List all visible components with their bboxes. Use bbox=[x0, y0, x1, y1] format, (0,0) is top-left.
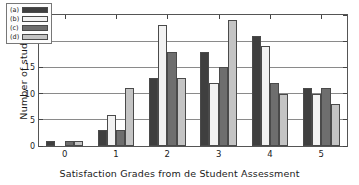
x-axis-tick-label: 3 bbox=[216, 149, 221, 159]
y-axis-tick-label: 0 bbox=[30, 142, 35, 151]
bar-d-grade-2 bbox=[177, 78, 186, 146]
y-axis-tick bbox=[39, 67, 43, 68]
bar-a-grade-5 bbox=[303, 88, 312, 146]
bar-c-grade-2 bbox=[167, 52, 176, 146]
bar-b-grade-4 bbox=[261, 46, 270, 146]
legend-item-b: (b) bbox=[10, 15, 48, 23]
y-axis-tick bbox=[343, 67, 347, 68]
y-axis-tick bbox=[343, 41, 347, 42]
x-axis-title: Satisfaction Grades from de Student Asse… bbox=[0, 168, 359, 179]
gridline bbox=[39, 67, 347, 68]
legend-item-c: (c) bbox=[10, 24, 48, 32]
y-axis-tick-label: 10 bbox=[25, 89, 35, 98]
legend-label: (c) bbox=[10, 24, 19, 32]
bar-d-grade-0 bbox=[74, 141, 83, 146]
legend-swatch-icon bbox=[22, 16, 48, 22]
bar-a-grade-2 bbox=[149, 78, 158, 146]
bar-b-grade-2 bbox=[158, 25, 167, 146]
bar-c-grade-4 bbox=[270, 83, 279, 146]
plot-area: 0510152025012345 bbox=[38, 14, 348, 147]
y-axis-tick bbox=[343, 146, 347, 147]
legend-swatch-icon bbox=[22, 25, 48, 31]
bar-a-grade-3 bbox=[200, 52, 209, 146]
y-axis-tick bbox=[39, 93, 43, 94]
bar-c-grade-0 bbox=[65, 141, 74, 146]
bar-a-grade-1 bbox=[98, 130, 107, 146]
bar-chart-figure: Number of students 0510152025012345 (a)(… bbox=[0, 0, 359, 185]
x-axis-tick bbox=[219, 15, 220, 19]
y-axis-tick-label: 5 bbox=[30, 115, 35, 124]
x-axis-tick bbox=[321, 15, 322, 19]
x-axis-tick bbox=[65, 15, 66, 19]
bar-a-grade-0 bbox=[46, 141, 55, 146]
bar-c-grade-1 bbox=[116, 130, 125, 146]
bar-b-grade-3 bbox=[209, 83, 218, 146]
y-axis-tick bbox=[39, 146, 43, 147]
chart-legend: (a)(b)(c)(d) bbox=[6, 3, 52, 44]
legend-label: (b) bbox=[10, 15, 19, 23]
gridline bbox=[39, 93, 347, 94]
gridline bbox=[39, 119, 347, 120]
x-axis-tick bbox=[167, 15, 168, 19]
y-axis-tick bbox=[343, 15, 347, 16]
legend-label: (d) bbox=[10, 33, 19, 41]
legend-item-d: (d) bbox=[10, 33, 48, 41]
bar-d-grade-1 bbox=[125, 88, 134, 146]
y-axis-tick bbox=[343, 93, 347, 94]
legend-item-a: (a) bbox=[10, 6, 48, 14]
bar-d-grade-3 bbox=[228, 20, 237, 146]
y-axis-tick bbox=[39, 119, 43, 120]
x-axis-tick bbox=[270, 15, 271, 19]
gridline bbox=[39, 41, 347, 42]
y-axis-tick-label: 15 bbox=[25, 63, 35, 72]
x-axis-tick bbox=[116, 15, 117, 19]
x-axis-tick-label: 1 bbox=[113, 149, 118, 159]
bar-d-grade-4 bbox=[279, 94, 288, 146]
bar-d-grade-5 bbox=[331, 104, 340, 146]
bar-c-grade-5 bbox=[321, 88, 330, 146]
x-axis-tick-label: 5 bbox=[319, 149, 324, 159]
x-axis-tick-label: 0 bbox=[62, 149, 67, 159]
bar-a-grade-4 bbox=[252, 36, 261, 146]
legend-swatch-icon bbox=[22, 34, 48, 40]
bar-b-grade-5 bbox=[312, 94, 321, 146]
x-axis-tick-label: 4 bbox=[267, 149, 272, 159]
bar-b-grade-1 bbox=[107, 115, 116, 146]
bar-c-grade-3 bbox=[219, 67, 228, 146]
legend-label: (a) bbox=[10, 6, 19, 14]
legend-swatch-icon bbox=[22, 7, 48, 13]
x-axis-tick-label: 2 bbox=[165, 149, 170, 159]
y-axis-tick bbox=[343, 119, 347, 120]
